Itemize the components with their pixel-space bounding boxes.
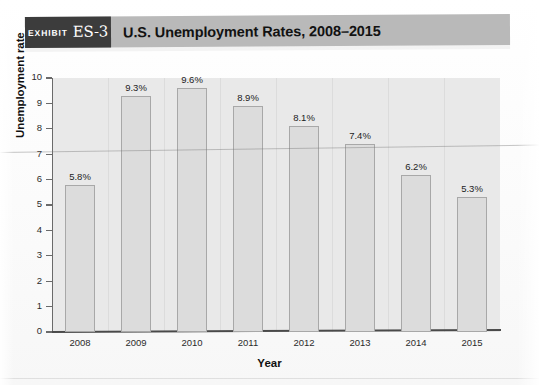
y-axis-tick: 6 (46, 179, 52, 180)
y-axis-tick-label: 6 (37, 173, 42, 184)
bar-value-label: 6.2% (394, 161, 438, 172)
x-axis-tick-label: 2009 (114, 337, 158, 348)
bar (289, 126, 319, 332)
x-axis-title: Year (0, 357, 539, 369)
y-axis-tick: 1 (46, 306, 52, 307)
y-axis-tick: 3 (46, 255, 52, 256)
y-axis-tick: 5 (46, 204, 52, 205)
bar-value-label: 8.9% (226, 92, 270, 103)
page-edge-right (517, 0, 539, 385)
plot-area (52, 78, 500, 332)
bar-chart: 012345678910 5.8%9.3%9.6%8.9%8.1%7.4%6.2… (0, 0, 539, 385)
y-axis-tick-label: 2 (37, 275, 42, 286)
x-axis-tick-label: 2008 (58, 337, 102, 348)
x-axis-tick-label: 2015 (450, 337, 494, 348)
bar (121, 96, 151, 332)
y-axis-tick: 4 (46, 230, 52, 231)
page-edge-left (0, 0, 14, 385)
y-axis-tick-label: 9 (37, 97, 42, 108)
y-axis-tick-label: 10 (31, 71, 42, 82)
category-gridline (220, 78, 221, 332)
x-axis-tick-label: 2010 (170, 337, 214, 348)
y-axis-tick-label: 1 (37, 300, 42, 311)
category-gridline (388, 78, 389, 332)
bar (233, 106, 263, 332)
y-axis-tick: 7 (46, 154, 52, 155)
bar-value-label: 9.6% (170, 74, 214, 85)
bar (457, 197, 487, 332)
y-axis-tick-label: 8 (37, 122, 42, 133)
scan-artifact-line-bottom (0, 378, 539, 379)
bar (65, 185, 95, 332)
y-axis-tick: 8 (46, 128, 52, 129)
bar-value-label: 9.3% (114, 82, 158, 93)
bar (345, 144, 375, 332)
x-axis-tick-label: 2012 (282, 337, 326, 348)
bar-value-label: 8.1% (282, 112, 326, 123)
x-axis-tick-label: 2011 (226, 337, 270, 348)
category-gridline (276, 78, 277, 332)
y-axis-tick: 9 (46, 103, 52, 104)
y-axis-tick: 10 (46, 77, 52, 78)
y-axis-tick-label: 5 (37, 198, 42, 209)
bar-value-label: 5.8% (58, 171, 102, 182)
bar-value-label: 7.4% (338, 130, 382, 141)
exhibit-figure: EXHIBIT ES-3 U.S. Unemployment Rates, 20… (0, 0, 539, 385)
y-axis-tick-label: 0 (37, 325, 42, 336)
y-axis-line (52, 78, 53, 332)
bar (177, 88, 207, 332)
x-axis-tick-label: 2014 (394, 337, 438, 348)
y-axis-tick-label: 3 (37, 249, 42, 260)
y-axis-title: Unemployment rate (14, 32, 26, 138)
bar-value-label: 5.3% (450, 183, 494, 194)
category-gridline (332, 78, 333, 332)
bar (401, 175, 431, 332)
y-axis-tick: 2 (46, 281, 52, 282)
category-gridline (164, 78, 165, 332)
y-axis-tick-label: 4 (37, 224, 42, 235)
y-axis-tick-label: 7 (37, 148, 42, 159)
x-axis-tick-label: 2013 (338, 337, 382, 348)
y-axis-tick: 0 (46, 331, 52, 332)
category-gridline (108, 78, 109, 332)
category-gridline (444, 78, 445, 332)
